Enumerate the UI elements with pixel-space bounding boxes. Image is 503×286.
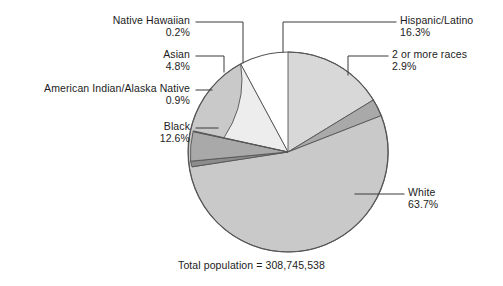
label-two-or-more-races-value: 2.9%	[392, 60, 503, 72]
label-hispanic-latino-value: 16.3%	[400, 26, 503, 38]
label-hispanic-latino: Hispanic/Latino 16.3%	[400, 14, 503, 38]
label-hispanic-latino-name: Hispanic/Latino	[400, 14, 503, 26]
label-native-hawaiian-value: 0.2%	[10, 26, 190, 38]
label-native-hawaiian: Native Hawaiian 0.2%	[10, 14, 190, 38]
leader-line-two-or-more-races	[348, 56, 388, 75]
leader-line-native-hawaiian	[196, 22, 243, 63]
label-american-indian-name: American Indian/Alaska Native	[2, 82, 190, 94]
pie-chart-figure: Native Hawaiian 0.2% Asian 4.8% American…	[0, 0, 503, 286]
label-black: Black 12.6%	[10, 120, 190, 144]
label-asian-name: Asian	[10, 48, 190, 60]
label-white: White 63.7%	[408, 186, 503, 210]
label-black-name: Black	[10, 120, 190, 132]
total-population-caption: Total population = 308,745,538	[0, 259, 503, 271]
label-white-name: White	[408, 186, 503, 198]
leader-line-hispanic-latino	[283, 22, 396, 52]
label-two-or-more-races: 2 or more races 2.9%	[392, 48, 503, 72]
label-white-value: 63.7%	[408, 198, 503, 210]
label-black-value: 12.6%	[10, 132, 190, 144]
label-asian-value: 4.8%	[10, 60, 190, 72]
pie-slices	[188, 52, 388, 252]
label-asian: Asian 4.8%	[10, 48, 190, 72]
label-native-hawaiian-name: Native Hawaiian	[10, 14, 190, 26]
label-american-indian-alaska-native: American Indian/Alaska Native 0.9%	[2, 82, 190, 106]
label-two-or-more-races-name: 2 or more races	[392, 48, 503, 60]
label-american-indian-value: 0.9%	[2, 94, 190, 106]
leader-line-asian	[196, 56, 224, 72]
